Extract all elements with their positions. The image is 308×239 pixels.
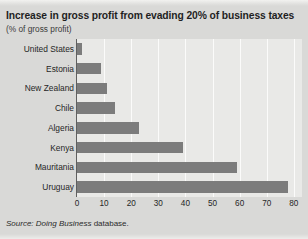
x-tick-label: 0	[65, 199, 89, 208]
x-tick-label: 30	[146, 199, 170, 208]
x-tick-label: 70	[255, 199, 279, 208]
bar	[77, 162, 237, 174]
plot-area	[77, 39, 302, 197]
page-top-edge	[0, 0, 308, 6]
chart-title: Increase in gross profit from evading 20…	[6, 10, 294, 21]
bar	[77, 102, 115, 114]
category-label: Uruguay	[42, 182, 74, 192]
gridline-30	[158, 39, 159, 197]
source-prefix: Source:	[6, 219, 34, 228]
category-label: United States	[24, 44, 74, 54]
gridline-40	[185, 39, 186, 197]
gridline-80	[294, 39, 295, 197]
x-tick-label: 40	[173, 199, 197, 208]
chart-figure: Increase in gross profit from evading 20…	[0, 0, 308, 239]
page-bottom-edge	[0, 234, 308, 239]
category-label: Chile	[55, 103, 74, 113]
category-label: Mauritania	[35, 162, 74, 172]
source-publication: Doing Business	[36, 219, 92, 228]
x-tick-label: 60	[228, 199, 252, 208]
source-suffix: database.	[94, 219, 129, 228]
category-label: Estonia	[46, 64, 74, 74]
bar	[77, 43, 82, 55]
gridline-50	[213, 39, 214, 197]
source-note: Source: Doing Business database.	[6, 219, 129, 228]
gridline-60	[240, 39, 241, 197]
bar	[77, 142, 183, 154]
gridline-20	[131, 39, 132, 197]
bar	[77, 83, 107, 95]
chart-subtitle: (% of gross profit)	[6, 24, 71, 34]
gridline-70	[267, 39, 268, 197]
x-tick-label: 80	[282, 199, 306, 208]
category-label: Algeria	[48, 123, 74, 133]
x-tick-label: 20	[119, 199, 143, 208]
bar	[77, 181, 288, 193]
gridline-10	[104, 39, 105, 197]
bar	[77, 63, 101, 75]
x-tick-label: 10	[92, 199, 116, 208]
x-tick-label: 50	[201, 199, 225, 208]
category-label: Kenya	[50, 143, 74, 153]
bar	[77, 122, 139, 134]
category-label: New Zealand	[25, 83, 74, 93]
